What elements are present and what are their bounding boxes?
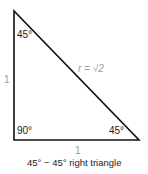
diagram-caption: 45° − 45° right triangle [27,158,121,168]
side-left-label: 1 [4,75,10,85]
side-bottom-label: 1 [75,146,81,156]
angle-right-angle-label: 90° [17,126,32,136]
right-triangle [14,11,139,140]
angle-bottom-right-label: 45° [109,126,124,136]
hypotenuse-label: r = √2 [78,64,104,74]
triangle-figure [0,0,148,174]
angle-top-label: 45° [17,30,32,40]
